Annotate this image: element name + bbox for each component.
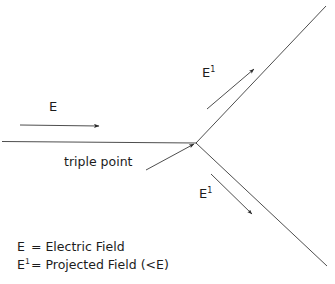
incident-field-line bbox=[2, 142, 197, 144]
upper-projected-field-label-base: E bbox=[202, 65, 210, 80]
upper-projected-field-label: E1 bbox=[202, 66, 215, 81]
triple-point-label: triple point bbox=[64, 155, 132, 169]
legend-definition-projected-field: = Projected Field (<E) bbox=[31, 257, 169, 272]
legend-definition-electric-field: = Electric Field bbox=[31, 239, 125, 254]
lower-projected-field-arrow bbox=[211, 174, 252, 214]
incident-field-label: E bbox=[49, 100, 57, 115]
legend-row-electric-field: E= Electric Field bbox=[17, 238, 169, 256]
lower-projected-ray bbox=[196, 143, 327, 266]
upper-projected-field-label-superscript: 1 bbox=[210, 65, 215, 74]
triple-point-label-text: triple point bbox=[64, 154, 132, 169]
legend-term-e: E bbox=[17, 238, 31, 256]
lower-projected-field-label-superscript: 1 bbox=[207, 186, 212, 195]
legend-term-e1: E1 bbox=[17, 256, 31, 274]
lower-projected-field-label-base: E bbox=[199, 186, 207, 201]
lower-projected-field-label: E1 bbox=[199, 187, 212, 202]
legend-term-e1-superscript: 1 bbox=[25, 257, 30, 266]
diagram-canvas: E E1 E1 triple point E= Electric Field E… bbox=[0, 0, 335, 284]
upper-projected-ray bbox=[196, 6, 326, 143]
legend-term-e1-base: E bbox=[17, 257, 25, 272]
incident-field-arrow bbox=[20, 125, 99, 126]
legend-term-e-base: E bbox=[17, 239, 25, 254]
incident-field-label-text: E bbox=[49, 99, 57, 114]
legend: E= Electric Field E1= Projected Field (<… bbox=[17, 238, 169, 274]
triple-point-leader-line bbox=[146, 144, 194, 170]
legend-row-projected-field: E1= Projected Field (<E) bbox=[17, 256, 169, 274]
